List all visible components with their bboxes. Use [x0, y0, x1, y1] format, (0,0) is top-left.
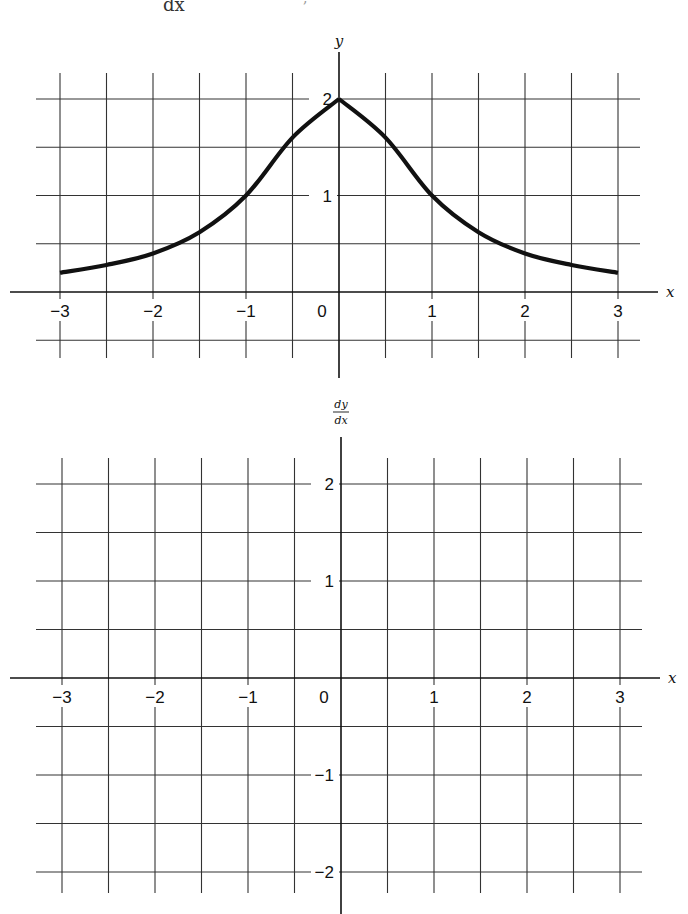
x-axis-label: x — [668, 669, 677, 687]
x-tick-label: 1 — [427, 302, 436, 321]
x-axis-label: x — [666, 283, 675, 301]
x-tick-label: 0 — [317, 302, 326, 321]
y-axis-label: y — [334, 32, 344, 50]
x-tick-label: 3 — [615, 688, 624, 707]
x-tick-label: 2 — [522, 688, 531, 707]
y-tick-label: −2 — [315, 863, 334, 882]
x-tick-label: −2 — [143, 302, 162, 321]
x-tick-label: −1 — [236, 302, 255, 321]
y-tick-label: 1 — [323, 187, 332, 206]
x-tick-label: 2 — [520, 302, 529, 321]
y-tick-label: 2 — [325, 475, 334, 494]
y-tick-label: 1 — [325, 572, 334, 591]
y-tick-label: −1 — [315, 766, 334, 785]
x-tick-label: 3 — [613, 302, 622, 321]
x-tick-label: 1 — [429, 688, 438, 707]
x-tick-label: −2 — [145, 688, 164, 707]
x-tick-label: −3 — [50, 302, 69, 321]
x-tick-label: 0 — [319, 688, 328, 707]
chart-y-of-x: −3−2−1012312xy — [10, 32, 675, 378]
chart-canvas: −3−2−1012312xy −3−2−1012321−1−2xdydx — [0, 0, 688, 914]
x-tick-label: −3 — [52, 688, 71, 707]
y-axis-label-denominator: dx — [334, 414, 348, 427]
x-tick-label: −1 — [238, 688, 257, 707]
y-axis-label-numerator: dy — [334, 398, 348, 411]
chart-dydx-of-x: −3−2−1012321−1−2xdydx — [10, 398, 677, 914]
